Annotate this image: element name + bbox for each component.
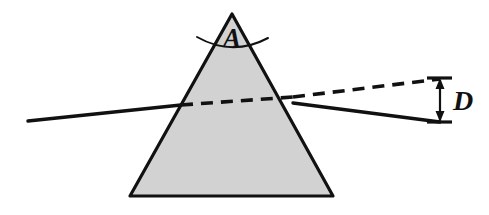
prism-diagram-canvas — [0, 0, 489, 215]
deviation-angle-label: D — [453, 87, 473, 115]
apex-angle-label: A — [223, 25, 241, 52]
emergent-ray — [293, 103, 440, 122]
prism-deviation-figure: A D — [0, 0, 489, 215]
incident-ray — [28, 105, 181, 121]
undeviated-extension-dashed-ray — [293, 79, 440, 97]
